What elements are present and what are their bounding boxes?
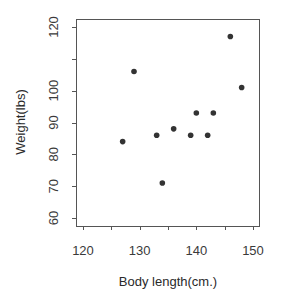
y-tick-label: 60 — [46, 211, 61, 225]
y-axis: 60708090100120 — [46, 16, 76, 225]
data-point — [228, 34, 234, 40]
data-point — [194, 110, 200, 116]
x-tick-label: 130 — [129, 243, 151, 258]
y-tick-label: 70 — [46, 179, 61, 193]
y-tick-label: 80 — [46, 147, 61, 161]
x-axis-title: Body length(cm.) — [119, 274, 217, 289]
data-point — [205, 132, 211, 138]
x-axis: 120130140150 — [72, 226, 264, 258]
y-tick-label: 90 — [46, 115, 61, 129]
plot-frame — [77, 20, 260, 227]
y-tick-label: 120 — [46, 16, 61, 38]
x-tick-label: 120 — [72, 243, 94, 258]
data-point — [188, 132, 194, 138]
data-point — [120, 139, 126, 145]
data-point — [239, 85, 245, 91]
data-point — [211, 110, 217, 116]
data-point — [160, 180, 166, 186]
y-axis-title: Weight(lbs) — [13, 89, 28, 155]
data-point — [154, 132, 160, 138]
data-point — [171, 126, 177, 132]
x-tick-label: 140 — [185, 243, 207, 258]
data-points — [120, 34, 245, 186]
x-tick-label: 150 — [242, 243, 264, 258]
data-point — [131, 69, 137, 75]
scatter-plot: 120130140150 60708090100120 Body length(… — [0, 0, 281, 302]
y-tick-label: 100 — [46, 80, 61, 102]
